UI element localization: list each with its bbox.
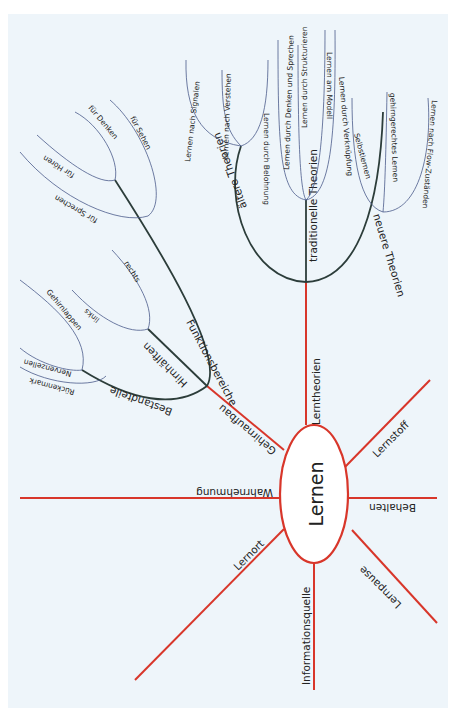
branch-lernort [135, 529, 284, 680]
leaf-fuer-sprechen: für Sprechen [53, 193, 99, 225]
leaf-fuer-sehen: für Sehen [128, 115, 153, 152]
leaf-gehirngerechtes-lernen: gehirngerechtes Lernen [388, 93, 400, 183]
label-bestandteile: Bestandteile [108, 385, 174, 419]
label-gehirnaufbau: Gehirnaufbau [216, 403, 278, 458]
label-wahrnehmung: Wahrnehmung [196, 487, 273, 499]
leaf-branch [20, 152, 148, 218]
center-label: Lernen [305, 461, 327, 526]
label-informationsquelle: Informationsquelle [300, 587, 312, 685]
label-lernpause: Lernpause [356, 564, 403, 611]
label-lerntheorien: Lerntheorien [310, 358, 322, 425]
leaf-lernen-am-modell: Lernen am Modell [325, 52, 334, 119]
label-lernort: Lernort [231, 537, 266, 572]
leaf-lernen-nach-verstehen: Lernen nach Verstehen [221, 73, 233, 160]
branch-gehirnaufbau [207, 386, 284, 450]
leaf-lernen-durch-strukturieren: Lernen durch Strukturieren [300, 26, 309, 128]
label-traditionelle-theorien: traditionelle Theorien [307, 149, 319, 262]
label-behalten: Behalten [369, 502, 416, 514]
leaf-lernen-durch-denken-und-sprechen: Lernen durch Denken und Sprechen [282, 35, 296, 170]
leaf-lernen-durch-verknuepfung: Lernen durch Verknüpfung [337, 76, 355, 176]
mind-map: Lernen Lerntheorien Gehirnaufbau Wahrneh… [0, 0, 457, 718]
label-hirnhaelften: Hirnhälften [140, 340, 190, 390]
leaf-fuer-denken: für Denken [86, 104, 120, 142]
leaf-fuer-hoeren: für Hören [41, 153, 76, 180]
leaf-branch [383, 92, 387, 212]
leaf-gehirnlappen: Gehirnlappen [44, 288, 84, 333]
leaf-rechts: rechts [122, 259, 142, 284]
branch-lernstoff [345, 380, 430, 467]
leaf-nervenzellen: Nervenzellen [22, 357, 72, 378]
leaf-lernen-durch-belohnung: Lernen durch Belohnung [262, 113, 271, 205]
label-neuere-theorien: neuere Theorien [371, 212, 408, 298]
label-lernstoff: Lernstoff [370, 418, 412, 460]
branch-bestandteile [82, 370, 207, 399]
leaf-lernen-nach-flow-zustaenden: Lernen nach Flow-Zuständen [421, 100, 439, 209]
leaf-links: links [82, 307, 101, 325]
